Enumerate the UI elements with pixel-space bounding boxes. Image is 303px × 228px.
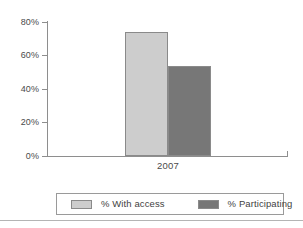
footer-divider: [0, 220, 303, 221]
legend-entry-participating: % Participating: [198, 194, 293, 214]
chart-legend: % With access % Participating: [56, 193, 284, 215]
bar-participating-2007: [168, 66, 211, 156]
legend-swatch-icon-with-access: [71, 200, 92, 209]
x-axis-line: [47, 156, 288, 157]
bar-chart-figure: 80% 60% 40% 20% 0% 2007 % With access % …: [0, 0, 303, 228]
legend-label-participating: % Participating: [228, 199, 293, 209]
y-axis-label-60: 60%: [0, 51, 39, 60]
y-axis-label-40: 40%: [0, 85, 39, 94]
y-axis-label-20: 20%: [0, 118, 39, 127]
y-axis-label-80: 80%: [0, 18, 39, 27]
x-axis-category-2007: 2007: [125, 161, 211, 171]
legend-swatch-icon-participating: [198, 200, 219, 209]
bar-with-access-2007: [125, 32, 168, 156]
legend-label-with-access: % With access: [101, 199, 165, 209]
legend-entry-with-access: % With access: [71, 194, 165, 214]
plot-area: [47, 22, 288, 156]
y-axis-label-0: 0%: [0, 152, 39, 161]
